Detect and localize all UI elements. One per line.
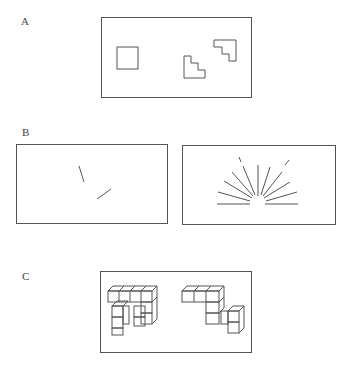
staircase-shape-2 [214,40,236,61]
oblique-line-1 [79,166,84,182]
sunburst-lines [217,157,298,204]
cube-figure-right [182,286,244,333]
staircase-shape-1 [184,56,205,78]
figure-drawings [0,0,347,368]
square-shape [117,47,138,69]
cube-figure-left [108,286,157,335]
oblique-line-2 [97,189,111,199]
